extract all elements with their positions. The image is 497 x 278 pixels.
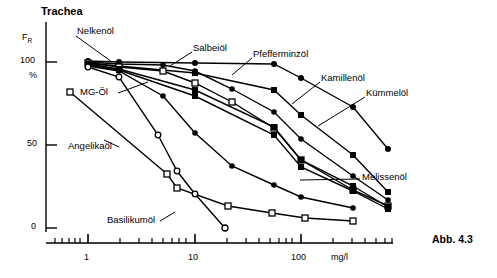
series-label-kamillenoel: Kamillenöl (321, 73, 365, 83)
series-label-angelikaoel: Angelikaöl (68, 141, 112, 151)
y-tick-0: 0 (31, 222, 36, 231)
series-label-melissenoel: Melissenöl (362, 172, 407, 182)
series-label-nelkenoel: Nelkenöl (77, 26, 114, 36)
x-axis-unit: mg/l (331, 253, 348, 262)
x-tick-10: 10 (188, 253, 198, 262)
figure-number: Abb. 4.3 (432, 234, 473, 245)
y-axis-unit: % (29, 71, 37, 80)
y-axis-title: FR (22, 33, 32, 44)
series-label-mgoel: MG-Öl (80, 87, 108, 97)
x-tick-100: 100 (291, 253, 306, 262)
series-line-angelikaoel (70, 92, 353, 221)
series-line-salbeioel (88, 63, 388, 206)
x-tick-1: 1 (84, 253, 89, 262)
series-label-kuemmeloel: Kümmelöl (366, 88, 408, 98)
markers-melissenoel (85, 62, 391, 212)
series-label-salbeioel: Salbeiöl (193, 43, 227, 53)
series-label-pfefferminzoel: Pfefferminzöl (253, 49, 308, 59)
y-tick-100: 100 (20, 56, 35, 65)
chart-svg (0, 0, 497, 278)
series-label-basilikumoel: Basilikumöl (107, 215, 155, 225)
x-axis-ticks (55, 234, 392, 243)
page-title: Trachea (41, 6, 83, 17)
markers-angelikaoel (67, 89, 356, 224)
series-line-kuemmeloel (88, 64, 388, 207)
axes (46, 22, 393, 243)
series-line-melissenoel (88, 65, 388, 209)
figure-canvas: Trachea FR 100 % 50 0 1 10 100 mg/l Nelk… (0, 0, 497, 278)
y-axis-title-subscript: R (28, 37, 33, 44)
y-tick-50: 50 (27, 139, 37, 148)
